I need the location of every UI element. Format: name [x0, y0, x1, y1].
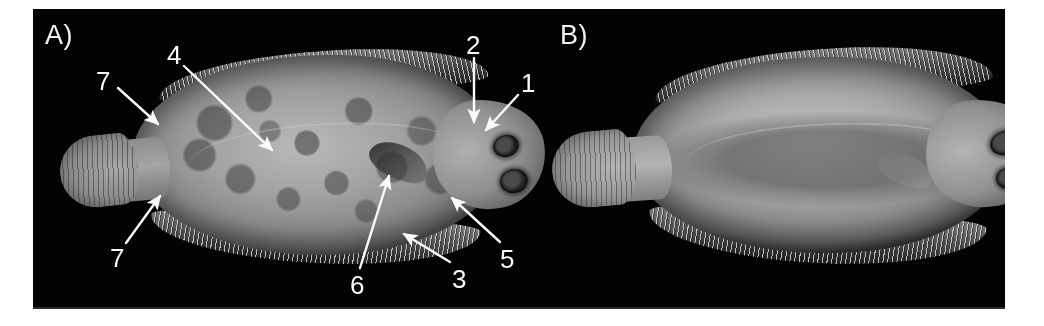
fish-specimen-panel-b [538, 27, 1005, 292]
fish-specimen-panel-a [38, 27, 538, 292]
caudal-fin-b [549, 127, 639, 210]
figure-canvas: A) B) 74217635 [0, 0, 1044, 326]
caudal-fin-a [56, 131, 141, 211]
photo-plate [33, 9, 1005, 309]
